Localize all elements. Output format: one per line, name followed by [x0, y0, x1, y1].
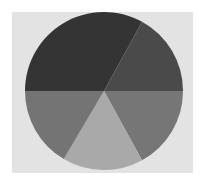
pie-chart [0, 0, 201, 181]
pie-slices [25, 12, 183, 170]
